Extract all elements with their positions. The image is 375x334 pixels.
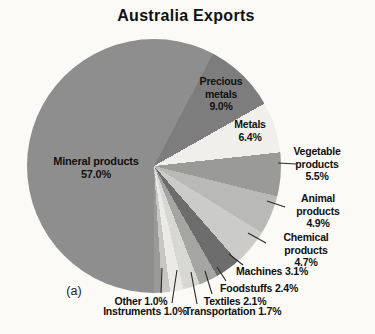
slice-label-foodstuffs: Foodstuffs 2.4%	[220, 282, 298, 295]
slice-label-machines: Machines 3.1%	[236, 265, 308, 278]
figure-marker: (a)	[66, 284, 81, 298]
slice-label-animal-products: Animal products 4.9%	[290, 192, 347, 230]
slice-label-chemical-products: Chemical products 4.7%	[272, 231, 341, 269]
chart-title: Australia Exports	[0, 7, 372, 25]
slice-label-precious-metals: Precious metals 9.0%	[200, 75, 243, 113]
slice-label-mineral-products: Mineral products 57.0%	[53, 155, 138, 181]
slice-label-metals: Metals 6.4%	[234, 118, 265, 143]
slice-label-vegetable-products: Vegetable products 5.5%	[293, 145, 340, 183]
slice-label-transportation: Transportation 1.7%	[185, 305, 282, 318]
slice-label-other: Other 1.0%	[115, 295, 168, 308]
figure-panel: Australia Exports Mineral products 57.0%…	[0, 0, 375, 334]
